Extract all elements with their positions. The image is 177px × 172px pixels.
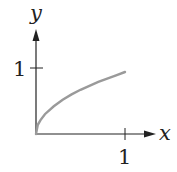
y-axis-arrow-icon <box>33 29 40 41</box>
curve-line <box>36 72 125 134</box>
y-tick-label: 1 <box>13 57 26 81</box>
x-axis-label: x <box>159 121 171 145</box>
x-tick-label: 1 <box>118 145 131 169</box>
x-axis-arrow-icon <box>144 131 156 138</box>
y-axis-label: y <box>29 1 43 25</box>
chart: 1 1 y x <box>0 0 177 172</box>
